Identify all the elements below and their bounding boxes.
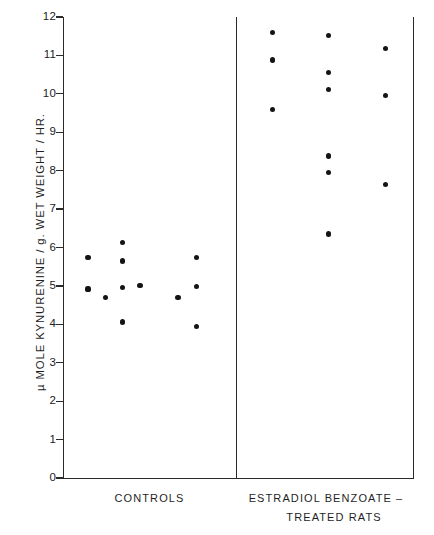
y-axis-tick-label: 3	[6, 357, 56, 369]
data-point	[270, 107, 275, 112]
y-axis-tick-label: 8	[6, 165, 56, 177]
y-axis-tick-label: 2	[6, 395, 56, 407]
y-axis-tick-mark	[56, 55, 63, 56]
data-point	[103, 295, 108, 300]
group-label-treated-line2: TREATED RATS	[246, 511, 422, 523]
data-point	[383, 46, 388, 51]
data-point	[270, 30, 275, 35]
y-axis-tick-mark	[56, 362, 63, 363]
y-axis-tick-label: 0	[6, 472, 56, 484]
data-point	[120, 285, 125, 290]
data-point	[326, 231, 331, 236]
y-axis-tick-mark	[56, 401, 63, 402]
y-axis-tick-label: 10	[6, 88, 56, 100]
y-axis-tick-mark	[56, 170, 63, 171]
y-axis-tick-label: 5	[6, 280, 56, 292]
data-point	[120, 258, 125, 263]
y-axis-title: µ MOLE KYNURENINE / g. WET WEIGHT / HR.	[34, 87, 46, 417]
data-point	[383, 182, 388, 187]
y-axis-tick-mark	[56, 324, 63, 325]
y-axis-tick-mark	[56, 16, 63, 17]
y-axis-tick-mark	[56, 477, 63, 478]
data-point	[383, 93, 388, 98]
y-axis-tick-label: 1	[6, 434, 56, 446]
data-point	[85, 255, 90, 260]
data-point	[326, 87, 331, 92]
y-axis-tick-mark	[56, 208, 63, 209]
data-point	[194, 324, 199, 329]
group-label-controls: CONTROLS	[63, 492, 236, 504]
y-axis-tick-mark	[56, 132, 63, 133]
y-axis-tick-mark	[56, 247, 63, 248]
data-point	[85, 286, 90, 291]
data-point	[137, 283, 142, 288]
data-point	[175, 295, 180, 300]
data-point	[326, 170, 331, 175]
data-point	[194, 255, 199, 260]
y-axis-tick-mark	[56, 93, 63, 94]
data-point	[326, 70, 331, 75]
data-point	[270, 57, 275, 62]
scatter-plot-figure: 0123456789101112 µ MOLE KYNURENINE / g. …	[0, 0, 434, 535]
y-axis-tick-label: 11	[6, 49, 56, 61]
group-label-treated-line1: ESTRADIOL BENZOATE –	[238, 492, 414, 504]
data-point	[120, 319, 125, 324]
data-point	[326, 153, 331, 158]
y-axis-line	[63, 17, 64, 479]
y-axis-tick-label: 12	[6, 11, 56, 23]
y-axis-tick-mark	[56, 285, 63, 286]
x-axis-line	[63, 478, 414, 479]
group-divider-line	[236, 17, 237, 479]
y-axis-tick-label: 7	[6, 203, 56, 215]
y-axis-tick-label: 9	[6, 126, 56, 138]
data-point	[326, 33, 331, 38]
y-axis-tick-label: 6	[6, 242, 56, 254]
y-axis-tick-mark	[56, 439, 63, 440]
data-point	[194, 284, 199, 289]
data-point	[120, 240, 125, 245]
y-axis-tick-label: 4	[6, 318, 56, 330]
plot-right-border	[413, 17, 414, 479]
